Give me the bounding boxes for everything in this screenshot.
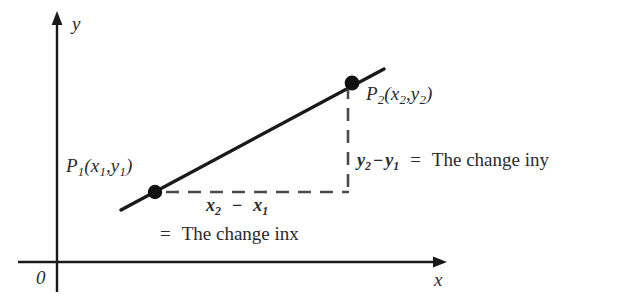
run-description-text: The change in <box>182 224 290 243</box>
run-description-var: x <box>289 224 299 243</box>
run-expression: x2−x1 <box>206 196 268 214</box>
y-axis-arrowhead <box>52 11 63 25</box>
p1-name: P <box>66 156 78 175</box>
slope-diagram-figure: y x 0 P1(x1, y1) P2(x2, y2) x2−x1 =The c… <box>0 0 627 308</box>
rise-minus: − <box>371 150 385 170</box>
p2-paren-close: ) <box>426 84 433 103</box>
run-minus: − <box>230 196 244 214</box>
rise-var-2: y <box>357 150 365 170</box>
p1-paren-close: ) <box>126 156 133 175</box>
run-description: =The change in x <box>160 224 299 243</box>
point-label-p2: P2(x2, y2) <box>366 84 432 103</box>
p1-coord-y: y <box>111 156 120 175</box>
origin-label: 0 <box>36 268 46 287</box>
p1-coord-y-sub: 1 <box>119 166 125 179</box>
run-sub-2: 2 <box>215 206 221 218</box>
x-axis-arrowhead <box>433 257 447 268</box>
rise-sub-1: 1 <box>393 159 399 173</box>
p2-name: P <box>366 84 378 103</box>
point-marker-p2 <box>345 76 360 91</box>
rise-description-var: y <box>539 150 549 169</box>
run-var-1: x <box>253 196 262 214</box>
p2-coord-x-sub: 2 <box>399 94 405 107</box>
rise-var-1: y <box>385 150 393 170</box>
rise-sub-2: 2 <box>365 159 371 173</box>
p1-coord-x: x <box>91 156 100 175</box>
rise-description-text: The change in <box>432 150 540 169</box>
p2-subscript: 2 <box>378 94 384 107</box>
p1-subscript: 1 <box>78 166 84 179</box>
y-axis <box>52 11 63 292</box>
rise-annotation: y2−y1=The change in y <box>357 150 549 169</box>
p2-coord-y-sub: 2 <box>419 94 425 107</box>
x-axis-label: x <box>434 270 442 289</box>
rise-expression: y2−y1 <box>357 151 399 169</box>
y-axis-label: y <box>72 14 80 33</box>
run-sub-1: 1 <box>262 206 268 218</box>
p1-coord-x-sub: 1 <box>99 166 105 179</box>
p2-coord-y: y <box>411 84 420 103</box>
run-equals: = <box>160 224 171 243</box>
point-marker-p1 <box>148 185 162 199</box>
run-var-2: x <box>206 196 215 214</box>
rise-equals: = <box>410 150 421 169</box>
p2-coord-x: x <box>391 84 400 103</box>
x-axis <box>18 257 447 268</box>
point-label-p1: P1(x1, y1) <box>66 156 132 175</box>
